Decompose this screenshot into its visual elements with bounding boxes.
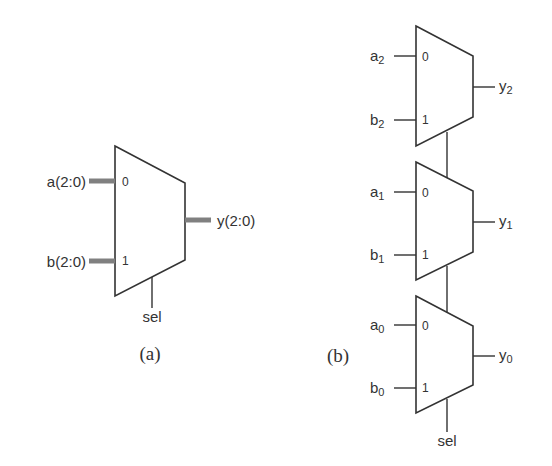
input-a-label: a2 xyxy=(370,47,384,66)
diagram-b: a2 b2 0 1 y2 a1 b1 0 1 y1 a0 b0 0 xyxy=(327,26,513,449)
caption-a: (a) xyxy=(139,343,160,365)
mux-body xyxy=(416,26,473,146)
input-a-label: a1 xyxy=(370,183,384,202)
port-1-label: 1 xyxy=(422,381,429,395)
mux-bit-0: a0 b0 0 1 y0 xyxy=(370,296,513,413)
port-0-label: 0 xyxy=(422,186,429,200)
mux-body xyxy=(115,146,185,296)
mux-bit-2: a2 b2 0 1 y2 xyxy=(370,26,513,146)
port-0-label: 0 xyxy=(422,319,429,333)
port-0-label: 0 xyxy=(422,50,429,64)
diagram-svg: a(2:0) b(2:0) 0 1 y(2:0) sel (a) a2 b2 0… xyxy=(0,0,552,466)
input-b-label: b0 xyxy=(370,379,384,398)
input-b-label: b1 xyxy=(370,246,384,265)
caption-b: (b) xyxy=(327,345,349,367)
output-y-label: y0 xyxy=(499,346,513,365)
mux-body xyxy=(416,162,473,280)
input-a-label: a0 xyxy=(370,316,384,335)
port-1-label: 1 xyxy=(422,248,429,262)
diagram-a: a(2:0) b(2:0) 0 1 y(2:0) sel (a) xyxy=(47,146,256,365)
port-0-label: 0 xyxy=(122,175,129,189)
mux-body xyxy=(416,296,473,413)
port-1-label: 1 xyxy=(122,254,129,268)
sel-label: sel xyxy=(142,308,161,325)
output-y-label: y(2:0) xyxy=(217,212,255,229)
port-1-label: 1 xyxy=(422,113,429,127)
output-y-label: y1 xyxy=(499,212,513,231)
mux-diagram-figure: a(2:0) b(2:0) 0 1 y(2:0) sel (a) a2 b2 0… xyxy=(0,0,552,466)
input-a-label: a(2:0) xyxy=(47,173,86,190)
input-b-label: b(2:0) xyxy=(47,253,86,270)
sel-label: sel xyxy=(437,432,456,449)
output-y-label: y2 xyxy=(499,77,513,96)
input-b-label: b2 xyxy=(370,111,384,130)
mux-bit-1: a1 b1 0 1 y1 xyxy=(370,162,513,280)
